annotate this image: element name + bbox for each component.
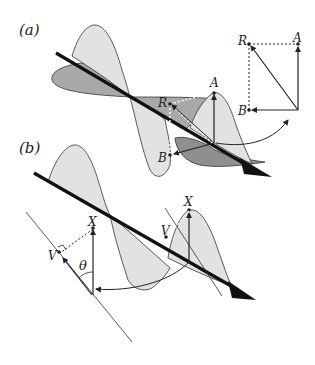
label-x-left: X — [87, 215, 97, 229]
label-v-right: V — [161, 224, 171, 238]
label-b: B — [157, 151, 167, 165]
label-x-right: X — [183, 195, 193, 209]
wave-lobe-b1 — [48, 145, 110, 215]
inset-label-r: R — [237, 34, 247, 48]
inset-label-b: B — [237, 104, 247, 118]
label-a: A — [209, 76, 219, 90]
label-r: R — [157, 96, 167, 110]
inset-vector-diagram: R A B — [237, 31, 302, 118]
wave-lobe-b3 — [168, 210, 232, 286]
label-v-left: V — [48, 249, 58, 263]
dotted-line-x-v — [60, 229, 93, 253]
panel-b: (b) X V θ X V — [19, 139, 256, 342]
wave-diagram: (a) A R B — [0, 0, 315, 365]
axis-arrowhead-b — [228, 281, 256, 300]
projection-vector-v — [63, 258, 92, 295]
inset-label-a: A — [292, 31, 302, 45]
panel-label-b: (b) — [19, 139, 40, 157]
panel-label-a: (a) — [19, 21, 40, 39]
right-angle-marker — [58, 245, 66, 250]
label-theta: θ — [79, 258, 87, 273]
